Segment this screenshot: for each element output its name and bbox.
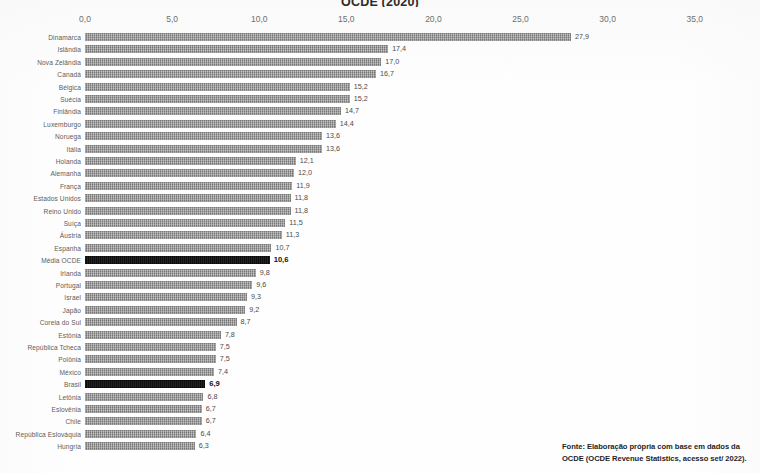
category-label: Estados Unidos bbox=[0, 193, 81, 204]
category-label: Israel bbox=[0, 292, 81, 303]
bar-value-label: 9,6 bbox=[256, 280, 266, 290]
bar-fill bbox=[85, 269, 256, 277]
chart-row: Espanha10,7 bbox=[0, 243, 760, 254]
bar bbox=[85, 442, 195, 450]
chart-row: Canadá16,7 bbox=[0, 69, 760, 80]
bar bbox=[85, 306, 245, 314]
bar-fill bbox=[85, 430, 196, 438]
chart-row: Nova Zelândia17,0 bbox=[0, 57, 760, 68]
bar-fill bbox=[85, 120, 336, 128]
category-label: Coreia do Sul bbox=[0, 317, 81, 328]
bar bbox=[85, 219, 285, 227]
bar bbox=[85, 83, 350, 91]
bar bbox=[85, 368, 214, 376]
bar bbox=[85, 182, 292, 190]
bar-value-label: 7,5 bbox=[220, 354, 230, 364]
chart-row: Finlândia14,7 bbox=[0, 106, 760, 117]
chart-row: Dinamarca27,9 bbox=[0, 32, 760, 43]
bar bbox=[85, 281, 252, 289]
category-label: Espanha bbox=[0, 243, 81, 254]
bar bbox=[85, 256, 270, 264]
chart-row: Noruega13,6 bbox=[0, 131, 760, 142]
chart-row: França11,9 bbox=[0, 181, 760, 192]
source-note-line-1: Fonte: Elaboração própria com base em da… bbox=[562, 441, 752, 453]
category-label: República Tcheca bbox=[0, 342, 81, 353]
bar bbox=[85, 58, 381, 66]
source-note-line-2: OCDE (OCDE Revenue Statistics, acesso se… bbox=[562, 453, 752, 465]
category-label: Hungria bbox=[0, 441, 81, 452]
bar-value-label: 9,8 bbox=[260, 268, 270, 278]
bar-value-label: 11,5 bbox=[289, 218, 302, 228]
bar bbox=[85, 269, 256, 277]
category-label: Suécia bbox=[0, 94, 81, 105]
bar bbox=[85, 343, 216, 351]
category-label: Brasil bbox=[0, 379, 81, 390]
bar-value-label: 16,7 bbox=[380, 69, 394, 79]
chart-row: Suécia15,2 bbox=[0, 94, 760, 105]
category-label: Canadá bbox=[0, 69, 81, 80]
bar bbox=[85, 331, 221, 339]
bar-fill bbox=[85, 219, 285, 227]
bar-value-label: 27,9 bbox=[575, 32, 589, 42]
bar bbox=[85, 207, 291, 215]
category-label: Islândia bbox=[0, 44, 81, 55]
bar-value-label: 6,7 bbox=[206, 404, 216, 414]
bar-fill bbox=[85, 417, 202, 425]
bar-value-label: 17,0 bbox=[385, 57, 399, 67]
chart-row: Irlanda9,8 bbox=[0, 268, 760, 279]
chart-row: Estônia7,8 bbox=[0, 330, 760, 341]
bar bbox=[85, 430, 196, 438]
bar-value-label: 12,0 bbox=[298, 168, 312, 178]
category-label: França bbox=[0, 181, 81, 192]
chart-row: República Eslováquia6,4 bbox=[0, 429, 760, 440]
source-note: Fonte: Elaboração própria com base em da… bbox=[562, 441, 752, 465]
bar-fill bbox=[85, 442, 195, 450]
chart-row: Portugal9,6 bbox=[0, 280, 760, 291]
category-label: Holanda bbox=[0, 156, 81, 167]
bar-fill bbox=[85, 231, 282, 239]
bar-fill bbox=[85, 331, 221, 339]
bar-fill bbox=[85, 58, 381, 66]
bar-value-label: 10,6 bbox=[274, 255, 289, 265]
bar-fill bbox=[85, 182, 292, 190]
bar-fill bbox=[85, 145, 322, 153]
x-axis-tick: 20,0 bbox=[425, 14, 442, 24]
bar bbox=[85, 293, 247, 301]
bar bbox=[85, 194, 291, 202]
chart-row: República Tcheca7,5 bbox=[0, 342, 760, 353]
bar-value-label: 9,2 bbox=[249, 305, 259, 315]
x-axis-tick: 0,0 bbox=[79, 14, 91, 24]
bar-value-label: 13,6 bbox=[326, 144, 340, 154]
x-axis-tick: 35,0 bbox=[686, 14, 703, 24]
x-axis: 0,05,010,015,020,025,030,035,0 bbox=[0, 14, 760, 28]
bar-value-label: 17,4 bbox=[392, 44, 406, 54]
bar bbox=[85, 132, 322, 140]
bar-value-label: 11,3 bbox=[286, 230, 299, 240]
chart-row: Letônia6,8 bbox=[0, 392, 760, 403]
chart-row: Itália13,6 bbox=[0, 144, 760, 155]
bar-value-label: 14,4 bbox=[340, 119, 354, 129]
bar-fill bbox=[85, 169, 294, 177]
chart-row: Chile6,7 bbox=[0, 416, 760, 427]
category-label: Alemanha bbox=[0, 168, 81, 179]
bar-value-label: 13,6 bbox=[326, 131, 340, 141]
bar bbox=[85, 157, 296, 165]
bar-fill bbox=[85, 95, 350, 103]
chart-row: Estados Unidos11,8 bbox=[0, 193, 760, 204]
bar bbox=[85, 120, 336, 128]
bar-chart-plot-area: Dinamarca27,9Islândia17,4Nova Zelândia17… bbox=[0, 30, 760, 470]
bar-fill bbox=[85, 70, 376, 78]
x-axis-tick: 5,0 bbox=[166, 14, 178, 24]
bar bbox=[85, 393, 203, 401]
category-label: Áustria bbox=[0, 230, 81, 241]
bar bbox=[85, 318, 237, 326]
chart-row: México7,4 bbox=[0, 367, 760, 378]
bar bbox=[85, 70, 376, 78]
chart-row: Média OCDE10,6 bbox=[0, 255, 760, 266]
category-label: Luxemburgo bbox=[0, 119, 81, 130]
x-axis-tick: 25,0 bbox=[512, 14, 529, 24]
bar bbox=[85, 145, 322, 153]
category-label: República Eslováquia bbox=[0, 429, 81, 440]
chart-row: Luxemburgo14,4 bbox=[0, 119, 760, 130]
bar-value-label: 10,7 bbox=[275, 243, 289, 253]
